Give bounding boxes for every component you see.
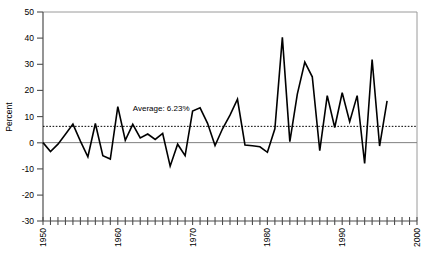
x-axis-tick-labels: 1950 1960 1970 1980 1990 2000 bbox=[38, 228, 422, 247]
x-tick-label-1970: 1970 bbox=[188, 228, 198, 247]
y-tick-label-40: 40 bbox=[25, 33, 35, 43]
y-tick-label-neg30: -30 bbox=[22, 216, 35, 226]
y-tick-label-20: 20 bbox=[25, 85, 35, 95]
y-axis-ticks bbox=[37, 12, 43, 221]
line-chart-plot: 50 40 30 20 10 0 -10 -20 -30 Percent 195… bbox=[0, 0, 427, 260]
data-series-line bbox=[43, 37, 387, 166]
y-axis-tick-labels: 50 40 30 20 10 0 -10 -20 -30 bbox=[22, 7, 35, 226]
y-tick-label-50: 50 bbox=[25, 7, 35, 17]
y-tick-label-neg20: -20 bbox=[22, 190, 35, 200]
y-tick-label-10: 10 bbox=[25, 112, 35, 122]
x-tick-label-1950: 1950 bbox=[38, 228, 48, 247]
y-axis-title: Percent bbox=[4, 102, 14, 132]
chart-container: 50 40 30 20 10 0 -10 -20 -30 Percent 195… bbox=[0, 0, 427, 260]
x-tick-label-1960: 1960 bbox=[113, 228, 123, 247]
x-tick-label-1990: 1990 bbox=[337, 228, 347, 247]
average-annotation-label: Average: 6.23% bbox=[133, 104, 190, 113]
x-tick-label-2000: 2000 bbox=[412, 228, 422, 247]
y-tick-label-30: 30 bbox=[25, 59, 35, 69]
x-tick-label-1980: 1980 bbox=[262, 228, 272, 247]
y-tick-label-neg10: -10 bbox=[22, 164, 35, 174]
y-tick-label-0: 0 bbox=[29, 138, 34, 148]
